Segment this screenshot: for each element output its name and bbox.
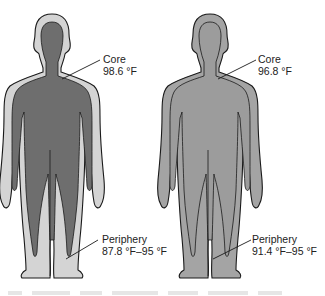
- cropped-caption-remnant: [8, 283, 318, 291]
- right-core-temperature: 96.8 °F: [258, 65, 292, 77]
- right-core-label: Core 96.8 °F: [258, 53, 292, 77]
- right-periphery-temperature: 91.4 °F–95 °F: [252, 245, 317, 257]
- right-periphery-label: Periphery 91.4 °F–95 °F: [252, 233, 317, 257]
- left-periphery-label: Periphery 87.8 °F–95 °F: [102, 233, 167, 257]
- right-periphery-title: Periphery: [252, 233, 317, 245]
- right-figure-cold: [158, 14, 263, 278]
- left-periphery-temperature: 87.8 °F–95 °F: [102, 245, 167, 257]
- left-core-label: Core 98.6 °F: [103, 53, 137, 77]
- right-core-leader-line: [218, 60, 256, 79]
- body-temperature-diagram: Core 98.6 °F Periphery 87.8 °F–95 °F Cor…: [0, 0, 325, 296]
- right-core-title: Core: [258, 53, 292, 65]
- left-periphery-title: Periphery: [102, 233, 167, 245]
- left-core-temperature: 98.6 °F: [103, 65, 137, 77]
- left-core-leader-line: [62, 60, 100, 79]
- left-figure-normal: [0, 14, 104, 278]
- left-core-title: Core: [103, 53, 137, 65]
